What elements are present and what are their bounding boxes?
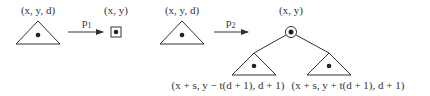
p2-edge-left xyxy=(254,35,286,53)
production-p2: (x, y, d) p2 (x, y) (x + s, y − t(d + 1)… xyxy=(160,4,405,92)
p1-output-dot xyxy=(114,30,119,35)
p2-root-label: (x, y) xyxy=(279,4,303,17)
p2-input-label: (x, y, d) xyxy=(165,4,199,17)
p2-arrow-label-sub: 2 xyxy=(232,21,236,30)
p1-input-triangle xyxy=(16,21,60,44)
p2-input-triangle-dot xyxy=(180,33,185,38)
p2-left-child-dot xyxy=(252,64,257,69)
p1-arrow-label: p1 xyxy=(82,16,92,30)
p1-arrow-label-sub: 1 xyxy=(88,21,92,30)
p1-input-label: (x, y, d) xyxy=(21,4,55,17)
p2-left-child-label: (x + s, y − t(d + 1), d + 1) xyxy=(172,79,285,92)
production-p1: (x, y, d) p1 (x, y) xyxy=(16,4,128,44)
p2-arrow-label: p2 xyxy=(226,16,236,30)
p2-right-child-dot xyxy=(327,64,332,69)
p2-root-dot xyxy=(289,30,294,35)
p1-input-triangle-dot xyxy=(36,33,41,38)
p2-input-triangle xyxy=(160,21,204,44)
diagram-canvas: (x, y, d) p1 (x, y) (x, y, d) p2 (x, y) … xyxy=(0,0,430,96)
p1-output-label: (x, y) xyxy=(104,4,128,17)
p2-right-child-label: (x + s, y + t(d + 1), d + 1) xyxy=(292,79,405,92)
p2-edge-right xyxy=(296,35,329,53)
